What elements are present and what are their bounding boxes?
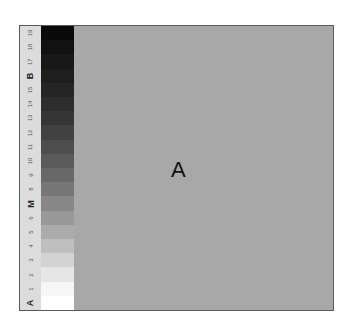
gray-step-swatch — [41, 239, 74, 253]
gray-step-swatch — [41, 97, 74, 111]
scale-label-cell: 2 — [20, 267, 41, 281]
scale-label: 9 — [28, 173, 34, 176]
gray-step-swatch — [41, 111, 74, 125]
scale-label-cell: 5 — [20, 225, 41, 239]
scale-label: 2 — [28, 273, 34, 276]
scale-label: 17 — [28, 58, 34, 65]
scale-label: 5 — [28, 230, 34, 233]
scale-label-cell: A — [20, 296, 41, 310]
scale-label: 14 — [28, 101, 34, 108]
scale-label-cell: 6 — [20, 211, 41, 225]
scale-label: 15 — [28, 87, 34, 94]
scale-label: 11 — [27, 144, 33, 150]
scale-label: 8 — [28, 188, 34, 191]
scale-label-cell: M — [20, 196, 41, 210]
scale-label: 4 — [28, 244, 34, 247]
scale-label-cell: 14 — [20, 97, 41, 111]
scale-label: B — [26, 72, 36, 79]
gray-field: A — [74, 26, 333, 310]
scale-label-cell: 4 — [20, 239, 41, 253]
scale-label: 13 — [28, 115, 34, 122]
scale-label-cell: B — [20, 69, 41, 83]
scale-label: 18 — [28, 44, 34, 51]
gray-step-swatch — [41, 83, 74, 97]
scale-label-cell: 9 — [20, 168, 41, 182]
scale-label-strip: 191817B15141312111098M654321A — [20, 26, 41, 310]
scale-label: 6 — [28, 216, 34, 219]
gray-step-swatch — [41, 253, 74, 267]
scale-label: 12 — [28, 129, 34, 136]
gray-scale-target: 191817B15141312111098M654321A A — [19, 25, 334, 311]
gray-step-swatch — [41, 26, 74, 40]
scale-label-cell: 19 — [20, 26, 41, 40]
gray-step-swatch — [41, 168, 74, 182]
gray-step-swatch — [41, 225, 74, 239]
scale-label: 1 — [28, 287, 34, 290]
scale-label-cell: 18 — [20, 40, 41, 54]
gray-step-swatch — [41, 140, 74, 154]
scale-label-cell: 12 — [20, 125, 41, 139]
scale-label: 3 — [28, 259, 34, 262]
gray-step-swatch — [41, 267, 74, 281]
gray-step-swatch — [41, 154, 74, 168]
center-label: A — [171, 159, 186, 181]
scale-label-cell: 1 — [20, 282, 41, 296]
scale-label-cell: 15 — [20, 83, 41, 97]
scale-label: M — [26, 200, 36, 208]
gray-step-swatch — [41, 54, 74, 68]
scale-label-cell: 17 — [20, 54, 41, 68]
scale-label: 10 — [28, 158, 34, 165]
scale-label-cell: 8 — [20, 182, 41, 196]
gray-step-swatch — [41, 69, 74, 83]
scale-label-cell: 3 — [20, 253, 41, 267]
scale-label: 19 — [28, 30, 34, 37]
gray-step-swatch — [41, 182, 74, 196]
gray-step-swatch — [41, 296, 74, 310]
gray-step-swatch — [41, 125, 74, 139]
gray-step-swatch — [41, 282, 74, 296]
scale-label-cell: 11 — [20, 140, 41, 154]
scale-label-cell: 10 — [20, 154, 41, 168]
gray-step-strip — [41, 26, 74, 310]
gray-step-swatch — [41, 40, 74, 54]
gray-step-swatch — [41, 196, 74, 210]
gray-step-swatch — [41, 211, 74, 225]
scale-label: A — [26, 300, 36, 307]
scale-label-cell: 13 — [20, 111, 41, 125]
